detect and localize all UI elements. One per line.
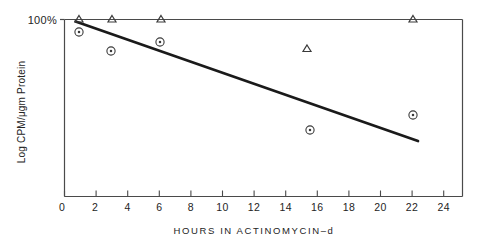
plot-frame: [60, 20, 463, 197]
data-point-triangle-24h: [409, 16, 417, 23]
x-axis-title: HOURS IN ACTINOMYCIN–d: [174, 225, 335, 236]
x-axis-tick-labels: 0 2 4 6 8 10 12 14 16 18 20 22 24: [59, 201, 450, 213]
series-control-markers: [75, 16, 417, 52]
data-point-circle-17h: [306, 126, 314, 134]
data-point-circle-1h: [75, 28, 83, 36]
data-point-triangle-6h: [157, 16, 165, 23]
regression-line: [76, 22, 418, 142]
x-tick-label-0: 0: [59, 201, 65, 213]
x-tick-label-12: 12: [248, 201, 260, 213]
x-tick-label-8: 8: [188, 201, 194, 213]
x-tick-label-2: 2: [92, 201, 98, 213]
x-tick-label-20: 20: [374, 201, 386, 213]
x-tick-label-24: 24: [437, 201, 449, 213]
x-tick-label-10: 10: [216, 201, 228, 213]
x-tick-label-4: 4: [125, 201, 131, 213]
data-point-circle-6h: [156, 38, 164, 46]
x-axis-ticks: [65, 191, 444, 197]
data-point-triangle-3h: [108, 16, 116, 23]
data-point-triangle-1h: [75, 16, 83, 23]
x-tick-label-18: 18: [343, 201, 355, 213]
x-tick-label-22: 22: [406, 201, 418, 213]
y-axis-title: Log CPM/μgm Protein: [16, 61, 27, 163]
data-point-circle-3h: [107, 47, 115, 55]
y-tick-label-100: 100%: [28, 14, 57, 26]
x-tick-label-14: 14: [279, 201, 291, 213]
data-point-circle-24h: [409, 111, 417, 119]
data-point-triangle-17h: [303, 45, 311, 52]
x-tick-label-16: 16: [311, 201, 323, 213]
x-tick-label-6: 6: [156, 201, 162, 213]
figure-container: 0 2 4 6 8 10 12 14 16 18 20 22 24 100% L…: [0, 0, 485, 247]
chart-svg: 0 2 4 6 8 10 12 14 16 18 20 22 24 100% L…: [0, 0, 485, 247]
